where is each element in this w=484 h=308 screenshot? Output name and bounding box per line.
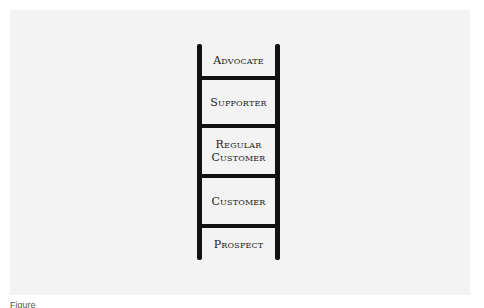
step-regular-customer: Regular Customer bbox=[202, 128, 275, 174]
step-supporter: Supporter bbox=[202, 80, 275, 124]
step-advocate: Advocate bbox=[202, 44, 275, 76]
figure-caption: Figure bbox=[10, 300, 36, 308]
step-customer: Customer bbox=[202, 178, 275, 224]
step-prospect: Prospect bbox=[202, 228, 275, 260]
